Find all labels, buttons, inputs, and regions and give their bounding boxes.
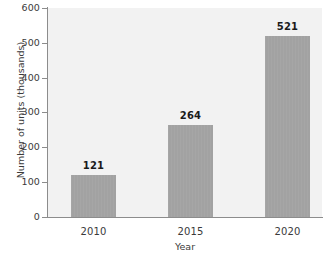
y-axis-tick-label: 0 xyxy=(14,212,40,222)
x-axis-tick-label-2010: 2010 xyxy=(71,227,116,237)
bar-2015[interactable] xyxy=(168,125,213,217)
bar-value-label-2015: 264 xyxy=(168,111,213,121)
bar-value-label-2020: 521 xyxy=(265,22,310,32)
y-axis-tick-mark xyxy=(42,147,47,148)
y-axis-tick-mark xyxy=(42,182,47,183)
y-axis-tick-mark xyxy=(42,112,47,113)
y-axis-tick-mark xyxy=(42,78,47,79)
bar-value-label-2010: 121 xyxy=(71,161,116,171)
bar-chart-figure: 0 100 200 300 400 500 600 121 264 521 20… xyxy=(0,0,333,255)
y-axis-tick-mark xyxy=(42,43,47,44)
bar-2010[interactable] xyxy=(71,175,116,217)
y-axis-tick-mark xyxy=(42,217,47,218)
y-axis-tick-mark xyxy=(42,8,47,9)
y-axis-title: Number of units (thousands) xyxy=(16,15,26,205)
bar-2020[interactable] xyxy=(265,36,310,217)
x-axis-tick-label-2015: 2015 xyxy=(168,227,213,237)
x-axis-title: Year xyxy=(48,242,322,252)
x-axis-line xyxy=(47,217,323,218)
y-axis-line xyxy=(47,7,48,218)
x-axis-tick-label-2020: 2020 xyxy=(265,227,310,237)
y-axis-tick-label: 600 xyxy=(14,3,40,13)
